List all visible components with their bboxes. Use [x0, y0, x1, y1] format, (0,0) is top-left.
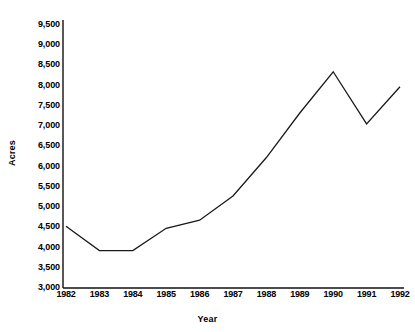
plot-area: [0, 0, 415, 332]
line-chart: Acres 9,5009,0008,5008,0007,5007,0006,50…: [0, 0, 415, 332]
data-series-line: [66, 72, 400, 251]
